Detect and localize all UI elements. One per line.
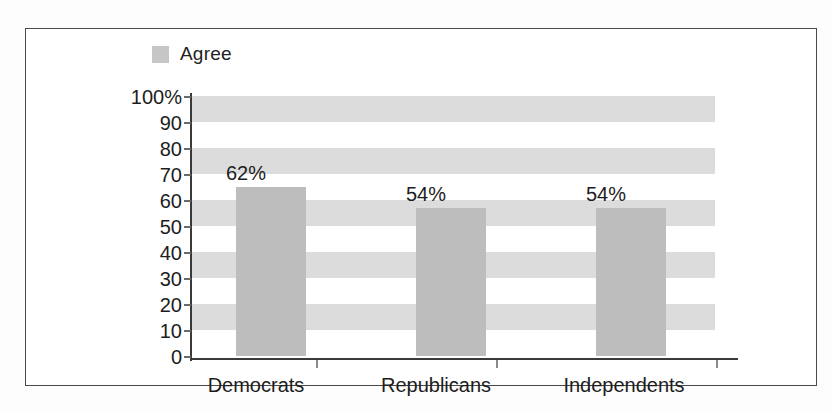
bar-independents bbox=[596, 208, 666, 356]
x-category-label-republicans: Republicans bbox=[376, 374, 496, 397]
bar-democrats bbox=[236, 187, 306, 356]
y-tick-label: 70 bbox=[120, 165, 182, 185]
y-tick bbox=[184, 174, 191, 176]
y-tick bbox=[184, 200, 191, 202]
y-tick-label: 90 bbox=[120, 113, 182, 133]
value-label-republicans: 54% bbox=[386, 183, 466, 206]
value-label-independents: 54% bbox=[566, 183, 646, 206]
y-tick-label: 10 bbox=[120, 321, 182, 341]
y-tick bbox=[184, 252, 191, 254]
x-category-label-independents: Independents bbox=[554, 374, 694, 397]
y-tick bbox=[184, 96, 191, 98]
y-tick bbox=[184, 356, 191, 358]
y-tick-label: 80 bbox=[120, 139, 182, 159]
y-tick-label: 50 bbox=[120, 217, 182, 237]
y-tick bbox=[184, 304, 191, 306]
y-tick bbox=[184, 226, 191, 228]
y-tick-label: 100% bbox=[120, 87, 182, 107]
y-axis-labels: 100% 90 80 70 60 50 40 30 20 10 0 bbox=[114, 29, 182, 411]
y-tick bbox=[184, 278, 191, 280]
y-tick bbox=[184, 330, 191, 332]
y-tick-label: 40 bbox=[120, 243, 182, 263]
value-label-democrats: 62% bbox=[206, 162, 286, 185]
x-category-label-democrats: Democrats bbox=[196, 374, 316, 397]
y-tick bbox=[184, 122, 191, 124]
y-tick bbox=[184, 148, 191, 150]
x-category-tick bbox=[316, 360, 318, 368]
y-tick-label: 60 bbox=[120, 191, 182, 211]
y-tick-label: 0 bbox=[120, 347, 182, 367]
x-category-tick bbox=[716, 360, 718, 368]
y-tick-label: 20 bbox=[120, 295, 182, 315]
x-axis-line bbox=[190, 358, 738, 360]
chart-frame: Agree 100% 90 80 70 60 50 40 30 20 10 0 bbox=[25, 28, 817, 386]
plot-area bbox=[191, 96, 715, 356]
legend-label-agree: Agree bbox=[180, 43, 232, 65]
grid-band bbox=[191, 96, 715, 122]
x-category-tick bbox=[496, 360, 498, 368]
bar-republicans bbox=[416, 208, 486, 356]
y-tick-label: 30 bbox=[120, 269, 182, 289]
